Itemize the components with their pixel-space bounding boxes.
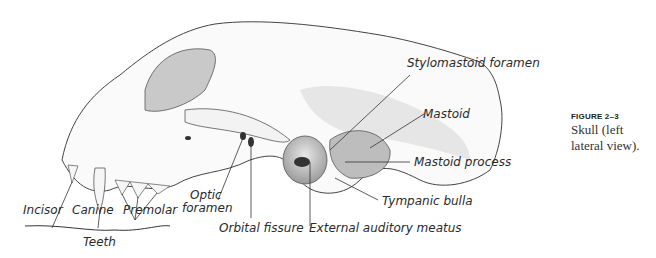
label-optic-foramen-line2: foramen bbox=[182, 201, 233, 215]
skull-illustration bbox=[0, 0, 656, 258]
label-mastoid: Mastoid bbox=[423, 107, 470, 121]
label-premolar: Premolar bbox=[123, 203, 177, 217]
label-tympanic-bulla: Tympanic bulla bbox=[382, 194, 473, 208]
label-orbital-fissure: Orbital fissure bbox=[219, 221, 304, 235]
label-stylomastoid-foramen: Stylomastoid foramen bbox=[407, 56, 540, 70]
external-auditory-meatus-hole bbox=[294, 157, 310, 167]
label-canine: Canine bbox=[72, 203, 114, 217]
label-incisor: Incisor bbox=[23, 203, 63, 217]
figure-number: FIGURE 2–3 bbox=[571, 112, 619, 121]
label-optic-foramen-line1: Optic bbox=[190, 188, 222, 202]
label-mastoid-process: Mastoid process bbox=[414, 155, 511, 169]
label-external-auditory-meatus: External auditory meatus bbox=[309, 221, 462, 235]
figure-caption: Skull (left lateral view). bbox=[571, 122, 656, 154]
mastoid-region bbox=[330, 131, 390, 179]
label-teeth: Teeth bbox=[83, 235, 116, 249]
teeth-brace bbox=[25, 226, 170, 231]
